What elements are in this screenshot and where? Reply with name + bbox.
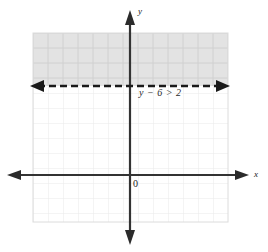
inequality-label: y − 6 > 2: [139, 88, 181, 98]
x-axis-label: x: [254, 170, 258, 179]
origin-label: 0: [133, 179, 138, 189]
coordinate-plane-svg: [0, 0, 268, 252]
y-axis-arrow-down: [125, 230, 135, 245]
x-axis-arrow-right: [235, 170, 249, 180]
y-axis-label: y: [138, 7, 142, 16]
y-axis-arrow-up: [125, 10, 135, 25]
x-axis-arrow-left: [7, 170, 21, 180]
graph-figure: y x 0 y − 6 > 2: [0, 0, 268, 252]
